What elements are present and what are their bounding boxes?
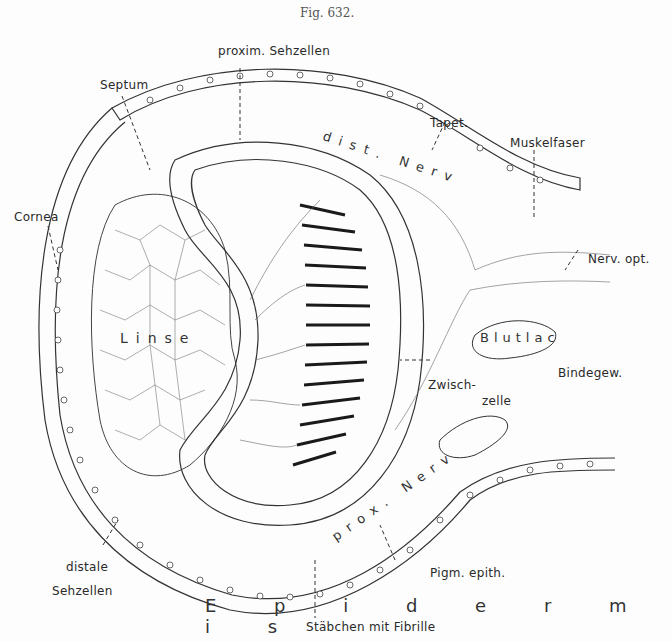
nerve-fibres [240,175,610,447]
eye-cross-section-drawing [0,0,672,642]
label-septum: Septum [100,78,148,92]
label-zwischzelle-line2: zelle [482,394,511,408]
retina-cup [170,142,424,525]
label-pigm-epith: Pigm. epith. [430,566,505,580]
label-zwischzelle-line1: Zwisch- [428,378,476,392]
label-proxim-sehzellen: proxim. Sehzellen [218,44,330,58]
label-blutlac: Blutlac [480,330,560,345]
label-nerv-opt: Nerv. opt. [588,252,650,266]
label-muskelfaser: Muskelfaser [510,136,585,150]
label-tapet: Tapet. [430,116,468,130]
label-distale-sehzellen-line1: distale [66,560,108,574]
figure-canvas: Fig. 632. proxim. Sehzellen Septum Tapet… [0,0,672,642]
label-linse: Linse [120,330,196,346]
label-cornea: Cornea [14,210,59,224]
figure-number: Fig. 632. [300,6,354,20]
rhabdome-rods [293,205,370,465]
label-distale-sehzellen-line2: Sehzellen [52,584,113,598]
label-bindegew: Bindegew. [558,366,622,380]
label-epidermis: E p i d e r m i s [205,595,672,637]
